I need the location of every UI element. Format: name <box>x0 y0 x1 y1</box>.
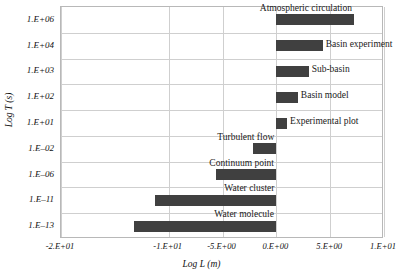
bar <box>253 143 277 154</box>
gridline-horizontal <box>61 187 382 188</box>
bar-label: Turbulent flow <box>217 132 274 143</box>
x-tick-label: 5.E+00 <box>316 241 342 251</box>
x-tick-label: -2.E+01 <box>46 241 75 251</box>
bar <box>134 221 276 232</box>
y-tick-label: 1.E+03 <box>0 65 54 75</box>
bar <box>276 118 287 129</box>
gridline-horizontal <box>61 84 382 85</box>
bar-label: Water cluster <box>224 183 274 194</box>
y-tick-label: 1.E–06 <box>0 169 54 179</box>
bar-label: Basin model <box>301 90 349 101</box>
bar-chart: 1.E+061.E+041.E+031.E+021.E+011.E–021.E–… <box>0 0 403 280</box>
gridline-horizontal <box>61 110 382 111</box>
gridline-horizontal <box>61 33 382 34</box>
gridline-vertical <box>61 7 62 237</box>
y-axis-title: Log T (s) <box>4 75 14 145</box>
bar <box>276 40 322 51</box>
bar-label: Experimental plot <box>290 116 358 127</box>
gridline-horizontal <box>61 59 382 60</box>
y-tick-label: 1.E+06 <box>0 14 54 24</box>
y-tick-label: 1.E+04 <box>0 40 54 50</box>
y-tick-label: 1.E–13 <box>0 220 54 230</box>
bar-label: Sub-basin <box>312 64 350 75</box>
x-axis-title: Log L (m) <box>0 259 403 269</box>
bar <box>216 169 276 180</box>
bar-label: Water molecule <box>214 209 274 220</box>
bar <box>276 66 308 77</box>
x-tick-label: 1.E+01 <box>370 241 396 251</box>
bar <box>155 195 277 206</box>
bar-label: Basin experiment <box>326 39 393 50</box>
x-tick-label: -5.E+00 <box>207 241 236 251</box>
bar <box>276 14 354 25</box>
bar <box>276 92 298 103</box>
x-tick-label: -1.E+01 <box>153 241 182 251</box>
bar-label: Continuum point <box>209 158 274 169</box>
y-tick-label: 1.E–11 <box>0 194 54 204</box>
bar-label: Atmospheric circulation <box>260 3 352 14</box>
x-tick-label: 0.E+00 <box>262 241 288 251</box>
